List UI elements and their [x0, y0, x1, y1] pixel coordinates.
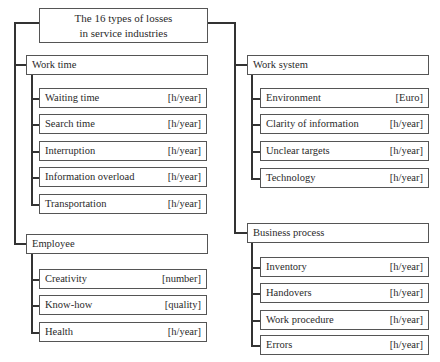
- connector: [251, 98, 260, 100]
- item-search-time: Search time [h/year]: [39, 114, 207, 134]
- connector: [251, 178, 260, 180]
- title-line-1: The 16 types of losses: [75, 11, 173, 26]
- item-label: Interruption: [45, 146, 95, 157]
- item-label: Errors: [266, 340, 292, 351]
- item-label: Know-how: [45, 300, 92, 311]
- item-handovers: Handovers [h/year]: [260, 283, 429, 303]
- item-unit: [quality]: [165, 300, 201, 311]
- item-creativity: Creativity [number]: [39, 269, 207, 289]
- item-unclear-targets: Unclear targets [h/year]: [260, 141, 429, 161]
- item-technology: Technology [h/year]: [260, 168, 429, 188]
- item-unit: [number]: [162, 274, 201, 285]
- category-work-system: Work system: [247, 55, 429, 75]
- item-label: Clarity of information: [266, 119, 359, 130]
- item-unit: [Euro]: [396, 93, 423, 104]
- item-information-overload: Information overload [h/year]: [39, 167, 207, 187]
- connector: [234, 64, 247, 66]
- connector: [251, 74, 253, 179]
- category-business-process: Business process: [247, 223, 429, 243]
- connector: [251, 151, 260, 153]
- category-label: Employee: [32, 239, 75, 250]
- item-unit: [h/year]: [390, 146, 423, 157]
- item-unit: [h/year]: [390, 288, 423, 299]
- item-work-procedure: Work procedure [h/year]: [260, 310, 429, 330]
- item-unit: [h/year]: [390, 119, 423, 130]
- item-label: Unclear targets: [266, 146, 330, 157]
- category-work-time: Work time: [26, 55, 208, 75]
- item-unit: [h/year]: [168, 93, 201, 104]
- category-label: Work system: [253, 60, 308, 71]
- connector: [14, 64, 26, 66]
- item-errors: Errors [h/year]: [260, 335, 429, 355]
- item-label: Inventory: [266, 262, 307, 273]
- connector: [31, 74, 33, 205]
- item-label: Information overload: [45, 172, 135, 183]
- item-health: Health [h/year]: [39, 322, 207, 342]
- item-unit: [h/year]: [168, 199, 201, 210]
- connector: [14, 22, 40, 24]
- item-inventory: Inventory [h/year]: [260, 257, 429, 277]
- item-label: Handovers: [266, 288, 312, 299]
- category-label: Work time: [32, 60, 76, 71]
- item-know-how: Know-how [quality]: [39, 295, 207, 315]
- item-label: Search time: [45, 119, 95, 130]
- connector: [251, 293, 260, 295]
- connector: [14, 243, 26, 245]
- item-label: Waiting time: [45, 93, 99, 104]
- item-unit: [h/year]: [390, 262, 423, 273]
- item-label: Creativity: [45, 274, 87, 285]
- connector: [251, 124, 260, 126]
- item-unit: [h/year]: [390, 315, 423, 326]
- item-unit: [h/year]: [168, 327, 201, 338]
- item-waiting-time: Waiting time [h/year]: [39, 88, 207, 108]
- connector: [207, 22, 235, 24]
- item-unit: [h/year]: [168, 119, 201, 130]
- item-label: Environment: [266, 93, 321, 104]
- item-unit: [h/year]: [390, 173, 423, 184]
- item-interruption: Interruption [h/year]: [39, 141, 207, 161]
- item-unit: [h/year]: [168, 146, 201, 157]
- connector: [251, 320, 260, 322]
- connector: [251, 345, 260, 347]
- item-unit: [h/year]: [168, 172, 201, 183]
- item-unit: [h/year]: [390, 340, 423, 351]
- title-line-2: in service industries: [80, 26, 168, 41]
- item-clarity-of-information: Clarity of information [h/year]: [260, 114, 429, 134]
- item-label: Health: [45, 327, 73, 338]
- category-employee: Employee: [26, 234, 208, 254]
- connector: [31, 253, 33, 333]
- connector: [234, 232, 247, 234]
- item-label: Technology: [266, 173, 315, 184]
- item-environment: Environment [Euro]: [260, 88, 429, 108]
- connector: [14, 22, 16, 244]
- diagram-title-box: The 16 types of losses in service indust…: [39, 8, 208, 43]
- item-label: Transportation: [45, 199, 106, 210]
- connector: [234, 22, 236, 232]
- item-transportation: Transportation [h/year]: [39, 194, 207, 214]
- item-label: Work procedure: [266, 315, 334, 326]
- category-label: Business process: [253, 228, 324, 239]
- connector: [251, 267, 260, 269]
